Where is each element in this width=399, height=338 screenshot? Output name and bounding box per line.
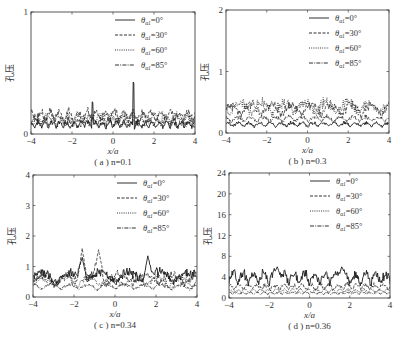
y-tick-label: 0 (222, 293, 227, 303)
x-tick-label: 4 (387, 135, 392, 145)
legend-label: θα1=60° (141, 45, 168, 56)
legend: θα1=0°θα1=30°θα1=60°θα1=85° (115, 178, 195, 235)
legend-label: θα1=85° (141, 60, 168, 71)
x-tick-label: −2 (262, 135, 272, 145)
subplot-d: −4−202404812162024x/a孔压( d ) n=0.36θα1=0… (203, 168, 393, 331)
x-tick-label: 4 (195, 299, 200, 309)
legend-label: θα1=30° (143, 193, 170, 204)
subplot-b: −4−2024012x/a孔压( b ) n=0.3θα1=0°θα1=30°θ… (200, 5, 392, 166)
legend-label: θα1=60° (335, 43, 362, 54)
y-axis-label: 孔压 (200, 63, 210, 81)
legend: θα1=0°θα1=30°θα1=60°θα1=85° (307, 13, 387, 70)
subplot-caption: ( a ) n=0.1 (94, 157, 132, 167)
y-axis-label: 孔压 (203, 227, 213, 245)
x-tick-label: 4 (193, 136, 198, 146)
y-tick-label: 1 (24, 7, 29, 17)
subplot-caption: ( b ) n=0.3 (288, 156, 327, 166)
legend-label: θα1=0° (143, 178, 165, 189)
series-line-dotted (229, 288, 390, 294)
y-tick-label: 0 (26, 292, 31, 302)
subplot-caption: ( c ) n=0.34 (94, 320, 137, 330)
legend-label: θα1=30° (335, 28, 362, 39)
x-tick-label: 2 (152, 136, 157, 146)
y-tick-label: 12 (217, 231, 226, 241)
y-tick-label: 3 (26, 201, 31, 211)
series-line-dotted (33, 274, 197, 289)
x-axis-label: x/a (107, 146, 119, 156)
legend-label: θα1=30° (141, 30, 168, 41)
legend-label: θα1=60° (143, 208, 170, 219)
legend-label: θα1=30° (336, 191, 363, 202)
x-tick-label: −2 (69, 299, 79, 309)
series-line-dashdot (229, 291, 390, 294)
y-tick-label: 0 (219, 128, 224, 138)
x-axis-label: x/a (303, 310, 315, 320)
series-line-dashdot (226, 115, 389, 124)
legend: θα1=0°θα1=30°θα1=60°θα1=85° (308, 176, 388, 233)
series-line-dashed (226, 100, 389, 119)
subplot-a: −4−202401x/a孔压( a ) n=0.1θα1=0°θα1=30°θα… (5, 7, 198, 167)
legend: θα1=0°θα1=30°θα1=60°θα1=85° (113, 15, 193, 72)
y-tick-label: 1 (26, 262, 31, 272)
x-axis-label: x/a (301, 145, 313, 155)
x-axis-label: x/a (109, 309, 121, 319)
y-tick-label: 4 (222, 272, 227, 282)
x-tick-label: −2 (264, 300, 274, 310)
series-line-solid (31, 82, 195, 129)
y-tick-label: 16 (217, 210, 227, 220)
subplot-caption: ( d ) n=0.36 (288, 321, 331, 331)
plot-area (226, 97, 389, 128)
y-tick-label: 2 (219, 5, 224, 15)
y-tick-label: 2 (26, 231, 31, 241)
y-tick-label: 20 (217, 189, 227, 199)
plot-area (31, 82, 195, 129)
plot-area (33, 248, 197, 291)
y-tick-label: 0 (24, 129, 29, 139)
y-axis-label: 孔压 (5, 64, 15, 82)
figure-canvas: −4−202401x/a孔压( a ) n=0.1θα1=0°θα1=30°θα… (0, 0, 399, 338)
series-line-solid (226, 121, 389, 128)
x-tick-label: 2 (346, 135, 351, 145)
legend-label: θα1=0° (141, 15, 163, 26)
legend-label: θα1=0° (336, 176, 358, 187)
y-tick-label: 8 (222, 251, 227, 261)
y-axis-label: 孔压 (7, 227, 17, 245)
legend-label: θα1=85° (336, 221, 363, 232)
x-tick-label: 0 (305, 135, 310, 145)
plot-area (229, 267, 390, 295)
x-tick-label: 0 (111, 136, 116, 146)
x-tick-label: 2 (154, 299, 159, 309)
subplot-c: −4−202401234x/a孔压( c ) n=0.34θα1=0°θα1=3… (7, 170, 200, 330)
x-tick-label: 4 (388, 300, 393, 310)
x-tick-label: 0 (307, 300, 312, 310)
y-tick-label: 24 (217, 168, 227, 178)
y-tick-label: 1 (219, 67, 224, 77)
legend-label: θα1=85° (143, 223, 170, 234)
legend-label: θα1=85° (335, 58, 362, 69)
x-tick-label: 2 (348, 300, 353, 310)
x-tick-label: 0 (113, 299, 118, 309)
x-tick-label: −2 (67, 136, 77, 146)
legend-label: θα1=0° (335, 13, 357, 24)
legend-label: θα1=60° (336, 206, 363, 217)
y-tick-label: 4 (26, 170, 31, 180)
